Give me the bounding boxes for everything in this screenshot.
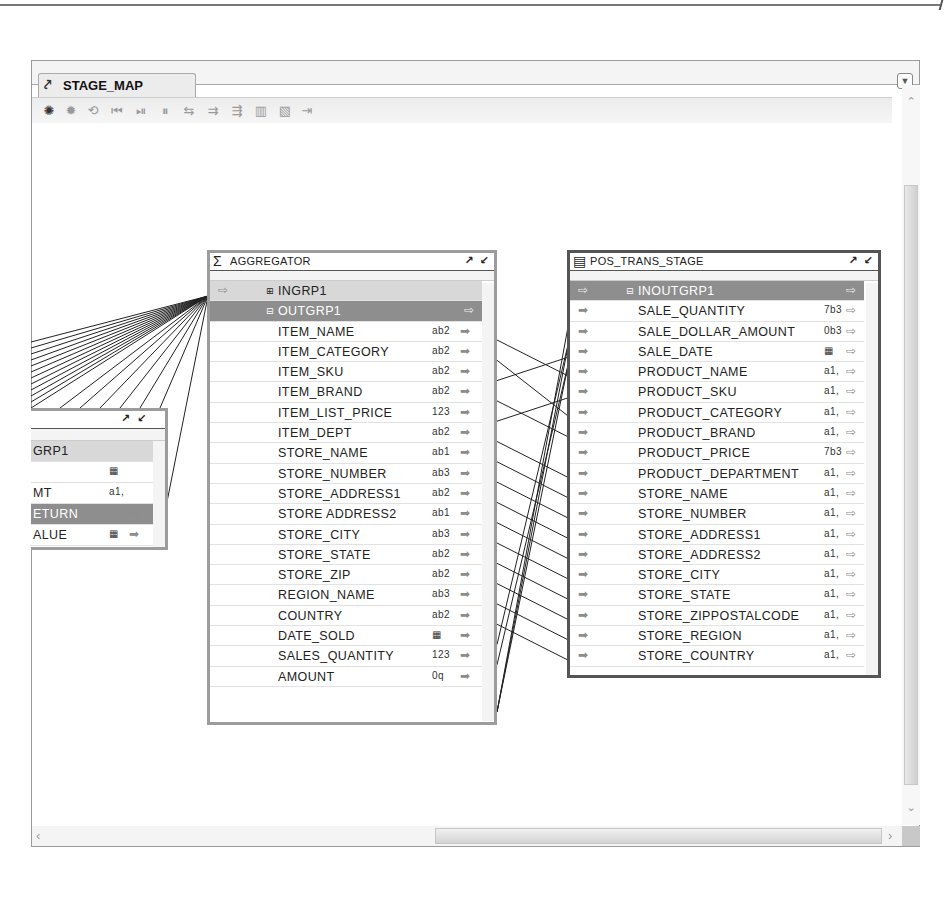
output-port-icon[interactable]: ➡	[460, 506, 470, 520]
table-row[interactable]: DATE_SOLD▦➡	[210, 626, 482, 646]
table-row[interactable]: STORE_ZIPab2➡	[210, 565, 482, 585]
operator-title-bar[interactable]: Σ AGGREGATOR ↗ ↙	[210, 253, 494, 271]
table-row[interactable]: ➡STORE_STATEa1,⇨	[570, 585, 864, 605]
output-port-icon[interactable]: ⇨	[846, 648, 856, 662]
output-port-icon[interactable]: ⇨	[846, 547, 856, 561]
input-port-icon[interactable]: ➡	[578, 608, 588, 622]
table-row[interactable]: ➡STORE_COUNTRYa1,⇨	[570, 646, 864, 666]
input-port-icon[interactable]: ➡	[578, 628, 588, 642]
output-port-icon[interactable]: ➡	[460, 384, 470, 398]
window-icon[interactable]: ▧	[276, 102, 294, 120]
input-port-icon[interactable]: ➡	[578, 587, 588, 601]
list-item[interactable]: ALUE▦➡	[31, 525, 165, 546]
table-row[interactable]: AMOUNT0q➡	[210, 667, 482, 687]
input-port-icon[interactable]: ➡	[578, 527, 588, 541]
table-row[interactable]: ➡STORE_REGIONa1,⇨	[570, 626, 864, 646]
debug-start-icon[interactable]: ✺	[40, 102, 58, 120]
operator-scrollbar[interactable]	[866, 283, 878, 675]
horizontal-scrollbar[interactable]: ‹ ›	[32, 826, 902, 846]
table-icon[interactable]: ▥	[252, 102, 270, 120]
output-port-icon[interactable]: ⇨	[846, 608, 856, 622]
operator-title-bar[interactable]: ▤ POS_TRANS_STAGE ↗ ↙	[570, 253, 878, 271]
collapse-icon[interactable]: ⊟	[626, 286, 634, 296]
table-row[interactable]: ➡STORE_ADDRESS2a1,⇨	[570, 545, 864, 565]
output-port-icon[interactable]: ➡	[460, 425, 470, 439]
output-port-icon[interactable]: ⇨	[846, 445, 856, 459]
table-row[interactable]: ➡SALE_DOLLAR_AMOUNT0b3⇨	[570, 322, 864, 342]
output-port-icon[interactable]: ⇨	[846, 344, 856, 358]
map-by-position-icon[interactable]: ⇉	[204, 102, 222, 120]
maximize-icon[interactable]: ↗	[121, 412, 131, 425]
map-by-name-icon[interactable]: ⇆	[180, 102, 198, 120]
operator-pos-trans-stage[interactable]: ▤ POS_TRANS_STAGE ↗ ↙ ⇨⊟INOUTGRP1⇨➡SALE_…	[567, 250, 881, 678]
table-row[interactable]: STORE_STATEab2➡	[210, 545, 482, 565]
table-row[interactable]: REGION_NAMEab3➡	[210, 585, 482, 605]
output-port-icon[interactable]: ➡	[460, 364, 470, 378]
expand-icon[interactable]: ⊞	[266, 286, 274, 296]
group-input-port-icon[interactable]: ⇨	[578, 283, 588, 297]
output-port-icon[interactable]: ➡	[460, 466, 470, 480]
list-item[interactable]: ▦	[31, 462, 165, 483]
group-output-port-icon[interactable]: ⇨	[464, 303, 474, 317]
input-port-icon[interactable]: ➡	[578, 648, 588, 662]
list-item[interactable]: GRP1	[31, 441, 165, 462]
auto-map-icon[interactable]: ⇶	[228, 102, 246, 120]
pause-icon[interactable]: ⏸	[156, 102, 174, 120]
output-port-icon[interactable]: ⇨	[846, 527, 856, 541]
export-icon[interactable]: ⇥	[298, 102, 316, 120]
table-row[interactable]: ➡PRODUCT_CATEGORYa1,⇨	[570, 403, 864, 423]
table-row[interactable]: ➡STORE_ZIPPOSTALCODEa1,⇨	[570, 606, 864, 626]
maximize-icon[interactable]: ↗	[464, 254, 474, 267]
tab-stage-map[interactable]: ⤤ STAGE_MAP	[38, 73, 196, 97]
minimize-icon[interactable]: ↙	[863, 254, 873, 267]
table-row[interactable]: ➡PRODUCT_NAMEa1,⇨	[570, 362, 864, 382]
input-port-icon[interactable]: ➡	[578, 364, 588, 378]
output-port-icon[interactable]: ➡	[460, 405, 470, 419]
output-port-icon[interactable]: ⇨	[846, 364, 856, 378]
table-row[interactable]: ➡SALE_DATE▦⇨	[570, 342, 864, 362]
input-port-icon[interactable]: ➡	[578, 344, 588, 358]
debug-step-icon[interactable]: ⟲	[84, 102, 102, 120]
table-row[interactable]: ➡STORE_NAMEa1,⇨	[570, 484, 864, 504]
output-port-icon[interactable]: ➡	[460, 567, 470, 581]
input-port-icon[interactable]: ➡	[578, 506, 588, 520]
maximize-icon[interactable]: ↗	[848, 254, 858, 267]
table-row[interactable]: SALES_QUANTITY123➡	[210, 646, 482, 666]
output-port-icon[interactable]: ⇨	[846, 405, 856, 419]
output-port-icon[interactable]: ➡	[460, 527, 470, 541]
output-port-icon[interactable]: ⇨	[846, 567, 856, 581]
output-port-icon[interactable]: ⇨	[846, 506, 856, 520]
table-row[interactable]: ITEM_SKUab2➡	[210, 362, 482, 382]
group-port-icon[interactable]: ⇨	[129, 506, 139, 520]
table-row[interactable]: ➡STORE_ADDRESS1a1,⇨	[570, 525, 864, 545]
table-row[interactable]: ITEM_BRANDab2➡	[210, 382, 482, 402]
output-port-icon[interactable]: ➡	[129, 527, 139, 541]
scroll-up-icon[interactable]: ⌃	[902, 95, 920, 111]
output-port-icon[interactable]: ⇨	[846, 303, 856, 317]
vertical-scroll-thumb[interactable]	[904, 185, 918, 785]
table-row[interactable]: ITEM_DEPTab2➡	[210, 423, 482, 443]
table-row[interactable]: STORE_CITYab3➡	[210, 525, 482, 545]
input-port-icon[interactable]: ➡	[578, 466, 588, 480]
operator-aggregator[interactable]: Σ AGGREGATOR ↗ ↙ ⇨⊞INGRP1⊟OUTGRP1⇨ITEM_N…	[207, 250, 497, 725]
input-port-icon[interactable]: ⇨	[218, 283, 228, 297]
output-port-icon[interactable]: ➡	[460, 648, 470, 662]
output-port-icon[interactable]: ⇨	[846, 466, 856, 480]
operator-scrollbar[interactable]	[482, 283, 494, 721]
input-port-icon[interactable]: ➡	[578, 324, 588, 338]
vertical-scrollbar[interactable]: ⌃ ⌄	[902, 85, 920, 825]
input-port-icon[interactable]: ➡	[578, 405, 588, 419]
operator-scrollbar[interactable]	[153, 441, 165, 547]
horizontal-scroll-thumb[interactable]	[435, 828, 882, 844]
output-port-icon[interactable]: ➡	[460, 669, 470, 683]
scroll-down-icon[interactable]: ⌄	[902, 801, 920, 817]
minimize-icon[interactable]: ↙	[479, 254, 489, 267]
input-port-icon[interactable]: ➡	[578, 486, 588, 500]
list-item[interactable]: MTa1,	[31, 483, 165, 504]
output-port-icon[interactable]: ⇨	[846, 384, 856, 398]
group-inoutgrp1[interactable]: ⇨⊟INOUTGRP1⇨	[570, 281, 864, 301]
table-row[interactable]: ➡PRODUCT_DEPARTMENTa1,⇨	[570, 464, 864, 484]
debug-stop-icon[interactable]: ✹	[62, 102, 80, 120]
list-item[interactable]: ETURN⇨	[31, 504, 165, 525]
output-port-icon[interactable]: ➡	[460, 344, 470, 358]
